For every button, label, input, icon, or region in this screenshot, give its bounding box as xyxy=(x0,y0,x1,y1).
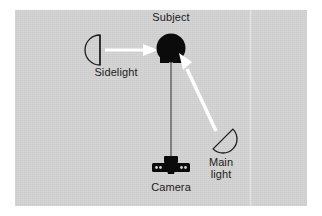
mainlight-beam-arrow xyxy=(179,53,216,131)
sidelight-beam-arrow xyxy=(105,44,158,56)
camera-icon xyxy=(152,156,190,174)
mainlight-label: Main light xyxy=(198,157,244,180)
mainlight-icon xyxy=(213,129,243,159)
subject-label: Subject xyxy=(140,12,202,24)
sidelight-icon xyxy=(85,35,100,65)
sidelight-label: Sidelight xyxy=(83,67,149,79)
figure-container: Subject Sidelight Camera Main light xyxy=(0,0,322,216)
camera-label: Camera xyxy=(140,182,202,194)
